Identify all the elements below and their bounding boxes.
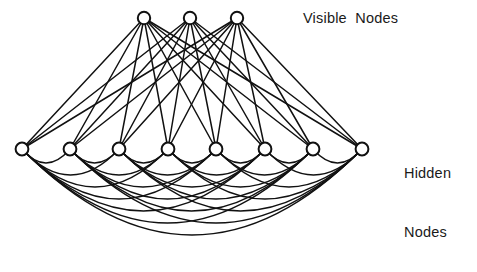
visible-node-v3 [231, 12, 243, 24]
edge-v1-h3 [119, 18, 144, 149]
visible-node-v2 [184, 12, 196, 24]
edge-v3-h8 [237, 18, 362, 149]
hidden-node-h4 [162, 143, 175, 156]
hidden-nodes-label-line2: Nodes [404, 223, 451, 243]
visible-nodes-label: Visible Nodes [303, 9, 398, 29]
hidden-node-h5 [210, 143, 223, 156]
edge-v1-h1 [22, 18, 144, 149]
edge-v2-h8 [190, 18, 362, 149]
edge-v3-h6 [237, 18, 265, 149]
visible-node-group [138, 12, 243, 24]
hidden-nodes-label: Hidden Nodes [404, 125, 451, 262]
edge-v1-h7 [144, 18, 313, 149]
edge-v3-h7 [237, 18, 313, 149]
hidden-node-h2 [64, 143, 77, 156]
arc-h7-h8 [313, 149, 362, 163]
hidden-node-h6 [259, 143, 272, 156]
hidden-nodes-label-line1: Hidden [404, 164, 451, 184]
hidden-node-h3 [113, 143, 126, 156]
hidden-node-h1 [16, 143, 29, 156]
visible-node-v1 [138, 12, 150, 24]
hidden-to-hidden-arc-edges [22, 149, 362, 235]
hidden-node-h7 [307, 143, 320, 156]
hidden-node-h8 [356, 143, 369, 156]
hidden-node-group [16, 143, 369, 156]
visible-to-hidden-edges [22, 18, 362, 149]
